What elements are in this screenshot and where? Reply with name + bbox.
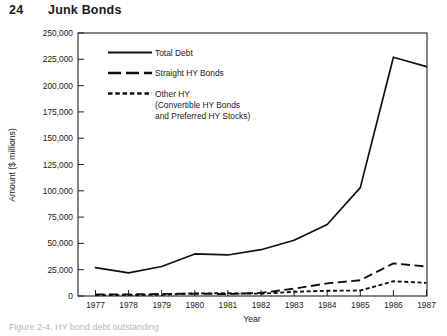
legend-label-total-debt: Total Debt	[155, 48, 193, 58]
x-tick-label: 1980	[185, 300, 204, 310]
page-header: 24 Junk Bonds	[0, 3, 447, 25]
x-tick-label: 1987	[417, 300, 436, 310]
page-number: 24	[9, 3, 23, 17]
y-tick-label: 150,000	[43, 133, 74, 143]
figure-caption: Figure 2-4. HY bond debt outstanding	[0, 322, 447, 336]
y-tick-label: 175,000	[43, 107, 74, 117]
x-axis-labels: 1977 1978 1979 1980 1981 1982 1983 1984 …	[86, 300, 436, 310]
y-tick-label: 0	[68, 291, 73, 301]
x-tick-label: 1981	[219, 300, 238, 310]
y-tick-label: 100,000	[43, 186, 74, 196]
y-tick-label: 200,000	[43, 81, 74, 91]
x-tick-label: 1984	[318, 300, 337, 310]
x-tick-label: 1979	[152, 300, 171, 310]
y-axis-title: Amount ($ millions)	[7, 128, 17, 202]
chart-figure: 0 25,000 50,000 75,000 100,000 125,000 1…	[0, 25, 447, 336]
y-axis-labels: 0 25,000 50,000 75,000 100,000 125,000 1…	[43, 28, 74, 301]
x-tick-label: 1985	[351, 300, 370, 310]
x-tick-label: 1977	[86, 300, 105, 310]
x-tick-label: 1982	[252, 300, 271, 310]
y-tick-label: 250,000	[43, 28, 74, 38]
y-tick-label: 225,000	[43, 54, 74, 64]
line-chart: 0 25,000 50,000 75,000 100,000 125,000 1…	[0, 25, 447, 336]
figure-caption-text: Figure 2-4. HY bond debt outstanding	[9, 322, 159, 332]
legend-label-other-hy: Other HY	[155, 89, 190, 99]
y-tick-label: 125,000	[43, 160, 74, 170]
legend-label-other-hy-line3: and Preferred HY Stocks)	[155, 111, 250, 121]
x-tick-label: 1978	[119, 300, 138, 310]
x-tick-label: 1983	[285, 300, 304, 310]
legend-label-straight-hy-bonds: Straight HY Bonds	[155, 68, 224, 78]
page-title: Junk Bonds	[48, 3, 122, 17]
y-tick-label: 75,000	[47, 212, 73, 222]
y-tick-label: 25,000	[47, 265, 73, 275]
x-tick-label: 1986	[384, 300, 403, 310]
y-tick-label: 50,000	[47, 238, 73, 248]
legend-label-other-hy-line2: (Convertible HY Bonds	[155, 100, 240, 110]
